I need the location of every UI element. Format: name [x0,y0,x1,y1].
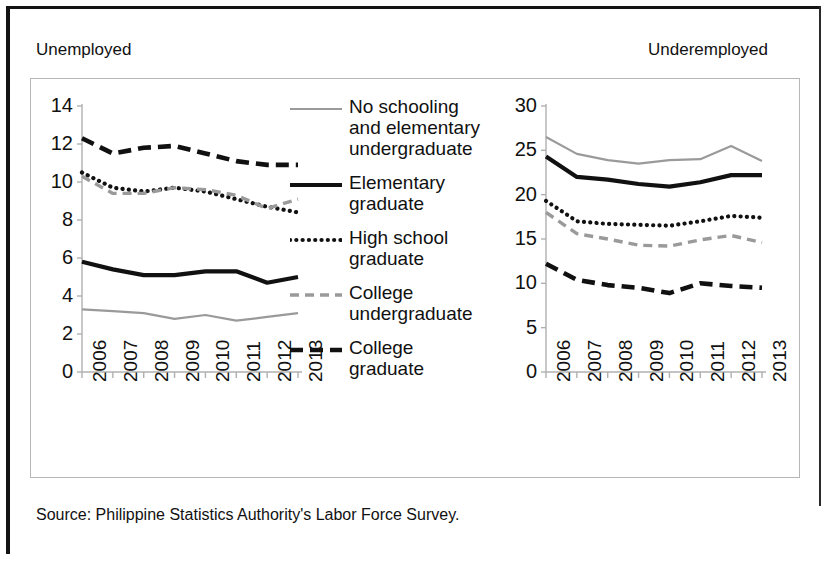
x-tick-label: 2009 [647,340,666,382]
series-line-high-school-graduate [546,201,762,226]
panel-caption-underemployed: Underemployed [648,40,768,60]
x-tick-label: 2009 [183,340,202,382]
chart-unemployed: 0246810121420062007200820092010201120122… [36,92,304,464]
y-tick-label: 14 [36,95,73,115]
y-tick-label: 15 [500,228,537,248]
figure-root: Unemployed Underemployed 024681012142006… [0,0,827,566]
x-tick-label: 2006 [554,340,573,382]
y-tick-label: 10 [500,272,537,292]
x-tick-label: 2007 [585,340,604,382]
x-tick-label: 2008 [616,340,635,382]
legend-item: College graduate [290,337,490,379]
legend-item-label: Elementary graduate [349,172,490,214]
x-tick-label: 2013 [770,340,789,382]
series-line-no-schooling-and-elementary-undergraduate [546,137,762,164]
legend-item-label: College undergraduate [349,282,490,324]
figure-outer-border-right [819,6,821,506]
x-tick-label: 2010 [677,340,696,382]
legend-item: High school graduate [290,227,490,269]
y-tick-label: 5 [500,317,537,337]
legend-item: Elementary graduate [290,172,490,214]
y-tick-label: 25 [500,139,537,159]
y-tick-label: 10 [36,171,73,191]
series-line-college-graduate [82,138,298,165]
chart-canvas-underemployed [500,92,768,464]
source-note: Source: Philippine Statistics Authority'… [36,505,459,525]
legend-item-label: High school graduate [349,227,490,269]
legend-line-college-graduate [290,337,342,359]
y-tick-label: 2 [36,323,73,343]
legend-line-elementary-graduate [290,172,342,194]
chart-legend: No schooling and elementary undergraduat… [290,96,490,392]
legend-item: College undergraduate [290,282,490,324]
series-line-no-schooling-and-elementary-undergraduate [82,309,298,320]
x-tick-label: 2007 [121,340,140,382]
y-tick-label: 20 [500,184,537,204]
legend-item-label: College graduate [349,337,490,379]
plot-area-underemployed: 0510152025302006200720082009201020112012… [500,92,768,464]
panel-caption-unemployed: Unemployed [36,40,131,60]
y-tick-label: 30 [500,95,537,115]
legend-item-label: No schooling and elementary undergraduat… [349,96,490,159]
x-tick-label: 2006 [90,340,109,382]
x-tick-label: 2010 [213,340,232,382]
y-tick-label: 6 [36,247,73,267]
x-tick-label: 2008 [152,340,171,382]
series-line-college-graduate [546,264,762,293]
x-tick-label: 2011 [244,341,263,382]
x-tick-label: 2011 [708,341,727,382]
series-line-college-undergraduate [82,176,298,208]
y-tick-label: 0 [36,361,73,381]
series-line-elementary-graduate [82,262,298,283]
legend-line-high-school-graduate [290,227,342,249]
legend-item: No schooling and elementary undergraduat… [290,96,490,159]
y-tick-label: 0 [500,361,537,381]
x-tick-label: 2012 [739,340,758,382]
legend-line-no-schooling [290,96,342,118]
legend-line-college-undergraduate [290,282,342,304]
chart-canvas-unemployed [36,92,304,464]
chart-underemployed: 0510152025302006200720082009201020112012… [500,92,768,464]
y-tick-label: 12 [36,133,73,153]
y-tick-label: 4 [36,285,73,305]
plot-area-unemployed: 0246810121420062007200820092010201120122… [36,92,304,464]
y-tick-label: 8 [36,209,73,229]
